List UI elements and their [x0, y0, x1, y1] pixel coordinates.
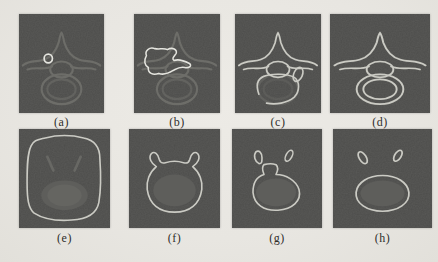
panel-a	[19, 14, 104, 113]
panel-c	[235, 14, 321, 113]
film-grain	[232, 129, 322, 228]
panel-b	[134, 14, 220, 113]
vertebra-axial-slice-bright-contour-nearly-converged-open-body-ring	[235, 14, 321, 113]
vertebra-body-slice-final-contours-body-and-two-separate-pedicles	[333, 129, 432, 228]
faint-vertebra-body	[361, 180, 405, 206]
panel-label-a: (a)	[19, 114, 104, 130]
panel-e	[19, 129, 110, 228]
panel-label-c: (c)	[235, 114, 321, 130]
film-grain	[333, 129, 432, 228]
panel-label-h: (h)	[333, 230, 432, 246]
panel-g	[232, 129, 322, 228]
figure-vertebra-segmentation: (a) (b) (c)	[0, 0, 438, 262]
faint-vertebra-body	[256, 179, 296, 207]
faint-vertebra-body	[153, 175, 195, 207]
panel-label-b: (b)	[134, 114, 220, 130]
panel-label-d: (d)	[330, 114, 430, 130]
vertebra-body-slice-contour-splitting-from-pedicles	[232, 129, 322, 228]
vertebra-body-slice-large-rounded-box-contour	[19, 129, 110, 228]
vertebra-axial-slice-faint-edges-with-growing-blob-contour	[134, 14, 220, 113]
panel-d	[330, 14, 430, 113]
vertebra-axial-slice-bright-contour-fully-converged	[330, 14, 430, 113]
panel-label-g: (g)	[232, 230, 322, 246]
panel-label-e: (e)	[19, 230, 110, 246]
vertebra-axial-slice-faint-edges-with-small-initial-circle-contour	[19, 14, 104, 113]
panel-h	[333, 129, 432, 228]
panel-f	[129, 129, 220, 228]
vertebra-body-slice-contour-hugging-body-and-pedicle-horns	[129, 129, 220, 228]
panel-label-f: (f)	[129, 230, 220, 246]
